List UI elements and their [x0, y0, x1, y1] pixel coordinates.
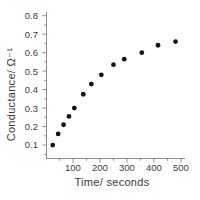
data-point	[56, 132, 61, 137]
data-point	[61, 122, 66, 127]
x-axis-label: Time/ seconds	[40, 176, 184, 189]
data-point	[156, 43, 161, 48]
data-point	[72, 106, 77, 111]
data-point	[81, 92, 86, 97]
data-point	[89, 82, 94, 87]
y-tick-label: 0.6	[25, 47, 38, 58]
x-tick-label: 500	[173, 162, 189, 173]
chart-canvas: 1002003004005000.10.20.30.40.50.60.70.8	[0, 0, 200, 200]
x-tick-label: 400	[146, 162, 162, 173]
data-point	[122, 57, 127, 62]
conductance-time-scatter-chart: 1002003004005000.10.20.30.40.50.60.70.8 …	[0, 0, 200, 200]
data-point	[173, 39, 178, 44]
y-tick-label: 0.7	[25, 29, 38, 40]
data-point	[50, 143, 55, 148]
data-point	[139, 50, 144, 55]
data-point	[67, 114, 72, 119]
y-tick-label: 0.5	[25, 66, 38, 77]
y-tick-label: 0.4	[25, 84, 38, 95]
data-point	[111, 62, 116, 67]
y-axis-label: Conductance/ Ω⁻¹	[5, 45, 18, 145]
x-tick-label: 300	[119, 162, 135, 173]
y-tick-label: 0.2	[25, 121, 38, 132]
data-point	[99, 72, 104, 77]
y-tick-label: 0.8	[25, 10, 38, 21]
y-tick-label: 0.1	[25, 139, 38, 150]
y-tick-label: 0.3	[25, 103, 38, 114]
x-tick-label: 100	[65, 162, 81, 173]
x-tick-label: 200	[92, 162, 108, 173]
